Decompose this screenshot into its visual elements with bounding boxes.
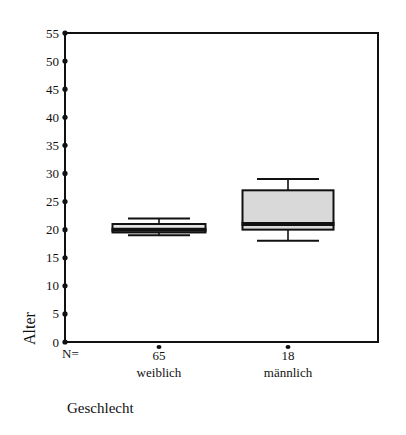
y-tick-label: 10 [46,278,59,293]
y-tick-label: 35 [46,138,59,153]
x-axis: 65weiblich18männlich [137,345,313,380]
n-value: 65 [153,348,166,363]
y-tick-label: 50 [46,54,59,69]
n-label: N= [62,346,79,361]
y-tick-mark [62,30,67,35]
x-axis-label: Geschlecht [67,400,134,416]
plot-frame [65,33,378,342]
y-axis-label: Alter [21,311,38,345]
boxplot-chart: 0510152025303540455055 65weiblich18männl… [0,0,406,435]
y-tick-mark [62,311,67,316]
y-tick-mark [62,199,67,204]
y-tick-label: 25 [46,194,59,209]
y-tick-label: 0 [53,335,60,350]
category-label: weiblich [137,365,182,380]
y-tick-mark [62,255,67,260]
y-tick-mark [62,339,67,344]
y-tick-mark [62,87,67,92]
y-tick-label: 45 [46,82,59,97]
y-tick-mark [62,227,67,232]
y-tick-label: 15 [46,250,59,265]
y-tick-mark [62,115,67,120]
box-0 [112,218,207,235]
y-tick-label: 55 [46,26,59,41]
y-tick-label: 30 [46,166,59,181]
y-tick-label: 5 [53,306,60,321]
y-tick-mark [62,171,67,176]
n-value: 18 [282,348,295,363]
y-tick-mark [62,283,67,288]
y-tick-label: 40 [46,110,59,125]
y-tick-label: 20 [46,222,59,237]
boxes [112,179,335,241]
y-tick-mark [62,143,67,148]
box-1 [242,179,335,241]
category-label: männlich [264,365,313,380]
y-tick-mark [62,58,67,63]
